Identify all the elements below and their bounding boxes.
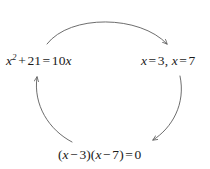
factored-form-label: (x−3)(x−7)=0 bbox=[58, 148, 141, 162]
cycle-diagram: x2+21=10x x=3, x=7 (x−3)(x−7)=0 bbox=[0, 0, 210, 169]
solution-roots-label: x=3, x=7 bbox=[141, 54, 195, 68]
arrow-layer bbox=[0, 0, 210, 169]
arrow-start-to-roots bbox=[47, 22, 167, 44]
arrow-roots-to-factored bbox=[153, 76, 181, 140]
quadratic-equation-label: x2+21=10x bbox=[6, 54, 72, 68]
arrow-factored-to-start bbox=[36, 77, 72, 142]
